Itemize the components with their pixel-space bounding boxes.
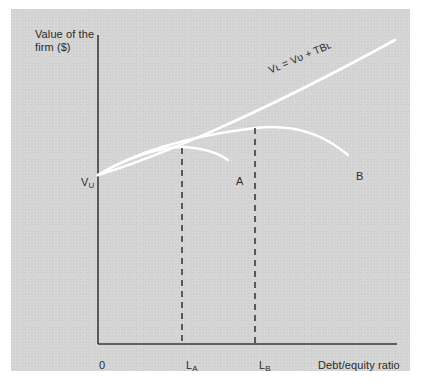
plot-area — [11, 9, 410, 371]
figure-container: Value of the firm ($) Debt/equity ratio … — [0, 0, 421, 385]
y-axis-title-line2: firm ($) — [35, 41, 71, 53]
label-la-subscript: A — [192, 364, 197, 371]
label-curve-b: B — [356, 170, 363, 183]
curve-b — [98, 127, 348, 175]
y-axis-title-line1: Value of the — [35, 28, 94, 40]
chart-panel: Value of the firm ($) Debt/equity ratio … — [11, 9, 410, 371]
label-vu: VU — [81, 176, 94, 189]
label-lb: LB — [259, 359, 271, 371]
label-curve-a: A — [236, 175, 243, 188]
label-origin: 0 — [99, 359, 105, 371]
label-vu-subscript: U — [88, 181, 94, 190]
y-axis-title: Value of the firm ($) — [35, 28, 107, 54]
x-axis-title: Debt/equity ratio — [318, 359, 400, 371]
label-lb-subscript: B — [265, 364, 270, 371]
label-la: LA — [186, 359, 198, 371]
